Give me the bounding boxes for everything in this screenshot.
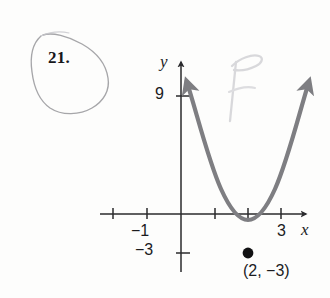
vertex-point-marker xyxy=(243,248,254,259)
pencil-circle-annotation xyxy=(31,32,108,114)
problem-number: 21. xyxy=(48,48,70,68)
y-tick-label-9: 9 xyxy=(155,85,164,103)
vertex-coordinate-label: (2, −3) xyxy=(243,262,290,280)
y-tick-label-neg3: −3 xyxy=(135,241,153,259)
pencil-grade-mark-f xyxy=(229,55,262,121)
y-axis-ticks xyxy=(176,96,190,253)
parabola-curve xyxy=(187,82,309,220)
x-axis-label: x xyxy=(301,220,309,240)
worksheet-figure-page: { "annotations": { "problem_number": "21… xyxy=(0,0,330,298)
x-tick-label-neg1: −1 xyxy=(131,222,149,240)
y-axis-label: y xyxy=(160,52,168,72)
graph-canvas xyxy=(0,0,330,298)
x-tick-label-3: 3 xyxy=(277,222,286,240)
